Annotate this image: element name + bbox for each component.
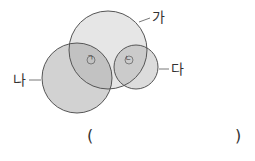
label-giyeok: ㄱ <box>87 55 93 62</box>
label-nieun: ㄴ <box>125 55 131 62</box>
answer-close-paren: ) <box>235 128 241 144</box>
label-na: 나 <box>13 73 26 87</box>
label-ga: 가 <box>152 10 165 24</box>
answer-open-paren: ( <box>87 128 93 144</box>
label-da: 다 <box>171 62 184 76</box>
venn-diagram <box>0 0 255 161</box>
